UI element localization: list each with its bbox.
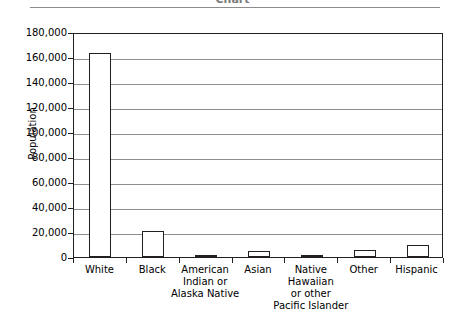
x-axis-tick-mark bbox=[443, 258, 444, 263]
gridline bbox=[74, 134, 442, 135]
y-axis-tick-label: 40,000 bbox=[5, 203, 67, 213]
y-axis-tick-label: 120,000 bbox=[5, 103, 67, 113]
bar bbox=[89, 53, 111, 257]
gridline bbox=[74, 234, 442, 235]
y-axis-tick-mark bbox=[68, 83, 73, 84]
y-axis-tick-label: 140,000 bbox=[5, 78, 67, 88]
x-axis-tick-mark bbox=[232, 258, 233, 263]
x-axis-tick-mark bbox=[337, 258, 338, 263]
gridline bbox=[74, 159, 442, 160]
x-axis-category-label: Hispanic bbox=[369, 264, 465, 276]
y-axis-tick-mark bbox=[68, 158, 73, 159]
bar bbox=[407, 245, 429, 258]
y-axis-tick-mark bbox=[68, 58, 73, 59]
x-axis-tick-mark bbox=[73, 258, 74, 263]
gridline bbox=[74, 209, 442, 210]
y-axis-tick-label: 20,000 bbox=[5, 228, 67, 238]
y-axis-tick-mark bbox=[68, 183, 73, 184]
x-axis-tick-mark bbox=[179, 258, 180, 263]
y-axis-tick-label: 180,000 bbox=[5, 28, 67, 38]
y-axis-tick-label: 160,000 bbox=[5, 53, 67, 63]
y-axis-tick-labels: 180,000160,000140,000120,000100,00080,00… bbox=[3, 33, 67, 258]
y-axis-tick-mark bbox=[68, 233, 73, 234]
bar bbox=[301, 255, 323, 257]
y-axis-tick-label: 60,000 bbox=[5, 178, 67, 188]
gridline bbox=[74, 184, 442, 185]
y-axis-tick-label: 0 bbox=[5, 253, 67, 263]
gridline bbox=[74, 59, 442, 60]
gridline bbox=[74, 109, 442, 110]
y-axis-tick-label: 80,000 bbox=[5, 153, 67, 163]
x-axis-tick-mark bbox=[390, 258, 391, 263]
x-axis-tick-mark bbox=[126, 258, 127, 263]
bar bbox=[354, 250, 376, 258]
plot-area bbox=[73, 33, 443, 258]
population-bar-chart: Population 180,000160,000140,000120,0001… bbox=[0, 0, 465, 328]
y-axis-tick-mark bbox=[68, 108, 73, 109]
y-axis-tick-mark bbox=[68, 33, 73, 34]
bar bbox=[195, 255, 217, 257]
y-axis-tick-mark bbox=[68, 208, 73, 209]
y-axis-tick-mark bbox=[68, 133, 73, 134]
x-axis-tick-mark bbox=[284, 258, 285, 263]
bar bbox=[248, 251, 270, 257]
gridline bbox=[74, 84, 442, 85]
bar bbox=[142, 231, 164, 257]
y-axis-tick-label: 100,000 bbox=[5, 128, 67, 138]
